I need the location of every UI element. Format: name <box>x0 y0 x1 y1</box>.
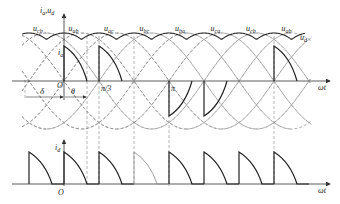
delta-label: δ <box>40 86 45 96</box>
voltage-labels: ucbuabuacubcubaucaucbuab <box>33 24 292 34</box>
rectifier-waveform-diagram: ia,ud ucbuabuacubcubaucaucbuab ud ia δ O… <box>0 0 340 204</box>
voltage-label-ab: uab <box>69 24 79 34</box>
upper-origin-label: O <box>57 81 63 90</box>
theta-label: θ <box>71 87 75 96</box>
ia-label: ia <box>58 48 63 58</box>
lower-x-axis-label: ωt <box>318 186 327 195</box>
pi-label: π <box>171 84 176 93</box>
voltage-label-ca: uca <box>211 24 221 34</box>
voltage-label-ab: uab <box>282 24 292 34</box>
upper-y-axis-label: ia,ud <box>40 6 55 16</box>
pi-over-3-label: π/3 <box>101 84 111 93</box>
voltage-label-ba: uba <box>175 24 185 34</box>
voltage-label-bc: ubc <box>140 24 150 34</box>
voltage-label-ac: uac <box>104 24 114 34</box>
lower-origin-label: O <box>58 188 64 197</box>
voltage-label-cb: ucb <box>33 24 43 34</box>
voltage-label-cb: ucb <box>246 24 256 34</box>
upper-x-axis-label: ωt <box>318 83 327 92</box>
id-current-pulses <box>29 152 309 184</box>
vertical-guides <box>25 36 274 186</box>
lower-y-axis-label: id <box>55 143 61 153</box>
ud-label: ud <box>300 33 308 43</box>
waveform-svg: ia,ud ucbuabuacubcubaucaucbuab ud ia δ O… <box>0 0 340 204</box>
